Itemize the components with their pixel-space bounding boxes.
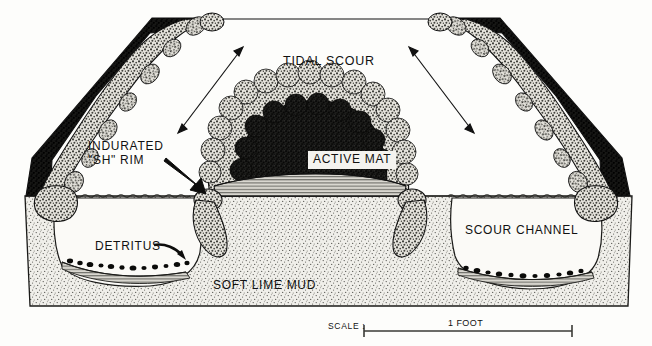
cross-section-drawing: [0, 0, 652, 346]
label-active-mat: ACTIVE MAT: [308, 151, 396, 169]
label-indurated-line1: INDURATED: [88, 140, 164, 154]
label-indurated-line2: "SH" RIM: [88, 154, 164, 168]
flow-arrow-right-icon: [409, 47, 474, 133]
label-scour-channel: SCOUR CHANNEL: [465, 224, 578, 238]
label-detritus: DETRITUS: [95, 240, 161, 254]
left-flank: [26, 13, 214, 222]
label-tidal-scour: TIDAL SCOUR: [283, 54, 375, 68]
label-indurated-sh-rim: INDURATED "SH" RIM: [88, 140, 164, 168]
figure-root: TIDAL SCOUR INDURATED "SH" RIM ACTIVE MA…: [0, 0, 652, 346]
right-flank: [438, 13, 630, 222]
label-scale-caption: SCALE :: [328, 322, 365, 332]
label-scale-length: 1 FOOT: [448, 318, 483, 328]
top-rim-line: [200, 13, 452, 31]
label-soft-lime-mud: SOFT LIME MUD: [213, 279, 316, 293]
